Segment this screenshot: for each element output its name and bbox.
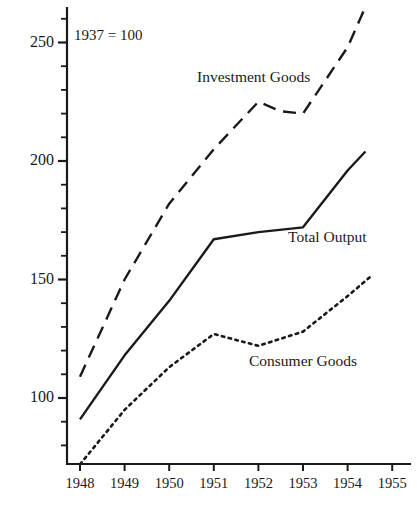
x-tick-label: 1953 [281,475,325,492]
x-tick-label: 1951 [192,475,236,492]
series-label-investment-goods: Investment Goods [197,68,310,86]
y-tick-label: 100 [8,388,54,406]
chart-figure: 100150200250 194819491950195119521953195… [0,0,417,507]
series-label-total-output: Total Output [288,228,367,246]
x-tick-label: 1952 [236,475,280,492]
x-tick-label: 1948 [58,475,102,492]
y-tick-label: 250 [8,33,54,51]
x-tick-label: 1954 [326,475,370,492]
series-line-investment-goods [80,7,365,377]
y-tick-label: 150 [8,270,54,288]
series-line-consumer-goods [80,277,370,464]
x-tick-label: 1949 [103,475,147,492]
base-year-note: 1937 = 100 [74,27,142,44]
x-tick-label: 1955 [370,475,414,492]
x-tick-label: 1950 [147,475,191,492]
y-tick-label: 200 [8,151,54,169]
series-label-consumer-goods: Consumer Goods [249,352,357,370]
series-line-total-output [80,152,365,420]
